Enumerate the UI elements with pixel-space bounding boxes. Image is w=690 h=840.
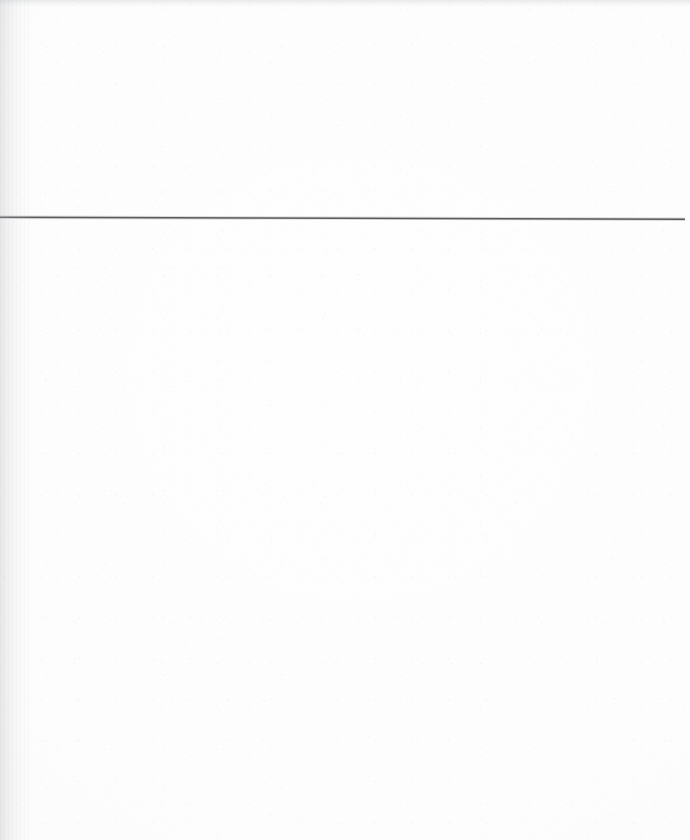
left-gutter-scan-shadow <box>0 0 34 840</box>
page-body-text <box>40 240 650 800</box>
top-edge-scan-shadow <box>0 0 690 8</box>
left-gutter-banding <box>0 0 30 840</box>
horizontal-rule-stroke <box>0 217 685 219</box>
scanned-page <box>0 0 690 840</box>
horizontal-rule-halo <box>0 217 685 219</box>
